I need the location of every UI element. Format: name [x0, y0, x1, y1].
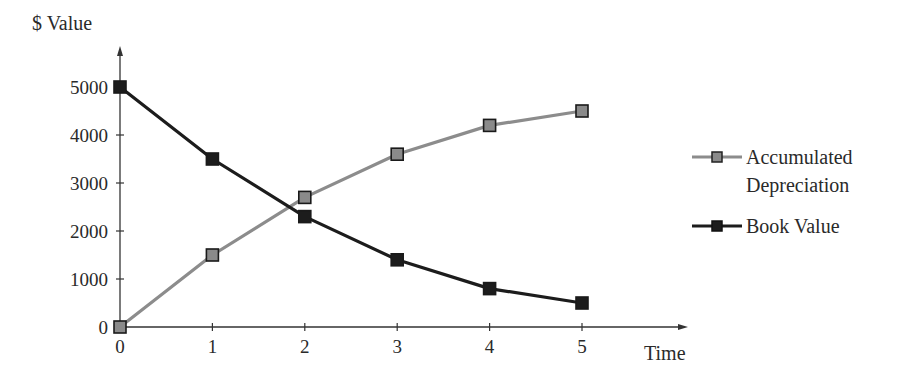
x-tick-label: 1	[208, 336, 218, 357]
data-point-marker	[576, 105, 588, 117]
data-point-marker	[299, 211, 311, 223]
legend-marker-gray-square-icon	[712, 152, 722, 162]
x-tick-label: 5	[577, 336, 587, 357]
legend-item-accumulated-depreciation: Accumulated Depreciation	[692, 146, 853, 197]
series-line	[120, 111, 582, 327]
data-point-marker	[299, 191, 311, 203]
y-axis-arrow-icon	[117, 46, 123, 56]
data-point-marker	[484, 283, 496, 295]
data-point-marker	[391, 148, 403, 160]
data-point-marker	[114, 321, 126, 333]
x-axis-title: Time	[644, 342, 686, 364]
data-point-marker	[484, 119, 496, 131]
y-tick-label: 0	[99, 317, 109, 338]
data-point-marker	[391, 254, 403, 266]
legend-label-depreciation: Depreciation	[746, 174, 849, 197]
x-tick-label: 2	[300, 336, 310, 357]
y-tick-label: 3000	[70, 173, 108, 194]
line-chart: 010002000300040005000 012345 $ Value Tim…	[0, 0, 924, 379]
y-tick-label: 4000	[70, 125, 108, 146]
y-tick-label: 5000	[70, 77, 108, 98]
x-axis-arrow-icon	[678, 324, 688, 330]
data-point-marker	[206, 249, 218, 261]
data-point-marker	[576, 297, 588, 309]
legend-marker-black-square-icon	[712, 221, 722, 231]
legend: Accumulated Depreciation Book Value	[692, 146, 853, 237]
y-ticks: 010002000300040005000	[70, 77, 124, 338]
legend-label-accumulated: Accumulated	[746, 146, 853, 168]
legend-label-book-value: Book Value	[746, 215, 840, 237]
data-point-marker	[114, 81, 126, 93]
x-ticks: 012345	[115, 323, 587, 357]
data-point-marker	[206, 153, 218, 165]
x-tick-label: 4	[485, 336, 495, 357]
x-tick-label: 0	[115, 336, 125, 357]
x-tick-label: 3	[392, 336, 402, 357]
y-axis-title: $ Value	[32, 12, 92, 34]
axes	[117, 46, 688, 330]
series-layer	[114, 81, 588, 333]
legend-item-book-value: Book Value	[692, 215, 840, 237]
y-tick-label: 1000	[70, 269, 108, 290]
series-line	[120, 87, 582, 303]
y-tick-label: 2000	[70, 221, 108, 242]
